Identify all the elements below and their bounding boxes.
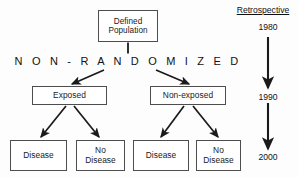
node-no-disease-non-exposed[interactable]: No Disease (196, 140, 241, 171)
node-defined-population-line2: Population (108, 26, 147, 35)
diagram-canvas: Defined Population N O N - R A N D O M I… (0, 0, 298, 177)
node-disease-non-exposed-label: Disease (146, 151, 177, 160)
connector-allocation-to-exposed (72, 70, 104, 84)
timeline-year-1990: 1990 (246, 92, 290, 102)
node-no-disease-exposed-line2: Disease (85, 156, 116, 165)
node-exposed-label: Exposed (53, 91, 86, 100)
node-exposed[interactable]: Exposed (32, 86, 107, 105)
connector-exposed-to-disease (41, 106, 66, 137)
node-non-exposed[interactable]: Non-exposed (150, 86, 226, 105)
node-no-disease-non-exposed-line2: Disease (203, 156, 234, 165)
node-disease-exposed[interactable]: Disease (10, 140, 67, 171)
connector-nonexposed-to-disease (161, 106, 184, 137)
node-disease-exposed-label: Disease (23, 151, 54, 160)
connector-exposed-to-no-disease (74, 106, 99, 137)
connector-nonexposed-to-no-disease (193, 106, 218, 137)
timeline-heading: Retrospective (228, 5, 298, 15)
timeline-year-1980: 1980 (246, 22, 290, 32)
timeline-year-2000: 2000 (246, 152, 290, 162)
node-no-disease-exposed[interactable]: No Disease (76, 140, 125, 171)
node-disease-non-exposed[interactable]: Disease (133, 140, 189, 171)
node-defined-population[interactable]: Defined Population (98, 10, 158, 42)
connector-allocation-to-nonexposed (156, 70, 189, 84)
node-defined-population-line1: Defined (108, 17, 147, 26)
node-non-exposed-label: Non-exposed (163, 91, 213, 100)
allocation-label: N O N - R A N D O M I Z E D (0, 55, 256, 67)
